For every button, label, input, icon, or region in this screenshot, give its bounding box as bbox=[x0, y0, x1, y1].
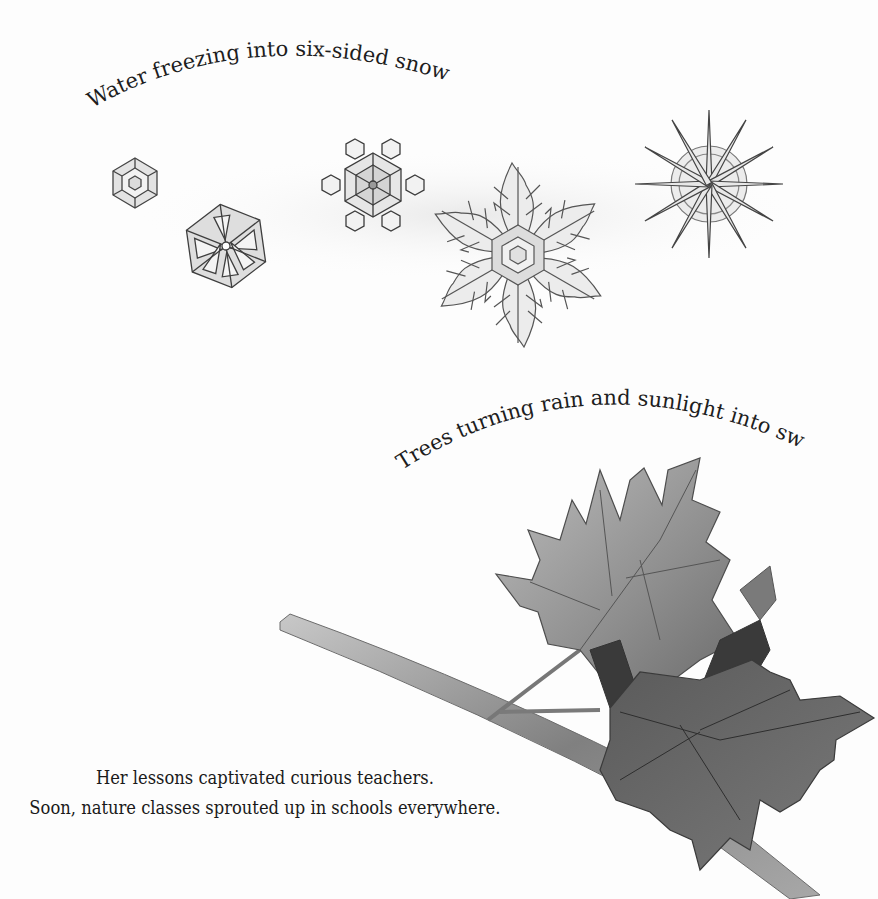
body-paragraph: Her lessons captivated curious teachers.… bbox=[0, 762, 530, 822]
caption-snowflakes: Water freezing into six-sided snowflakes… bbox=[0, 0, 453, 112]
book-page: Water freezing into six-sided snowflakes… bbox=[0, 0, 878, 899]
body-line-2: Soon, nature classes sprouted up in scho… bbox=[0, 792, 530, 822]
body-line-1: Her lessons captivated curious teachers. bbox=[0, 762, 530, 792]
